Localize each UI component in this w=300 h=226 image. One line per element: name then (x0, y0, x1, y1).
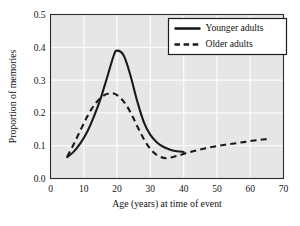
y-tick-label: 0.3 (34, 76, 46, 86)
y-tick-label: 0.0 (34, 174, 46, 184)
x-tick-label: 20 (112, 184, 122, 194)
legend-label: Older adults (206, 38, 253, 49)
y-tick-label: 0.5 (34, 10, 46, 20)
y-axis-title: Proportion of memories (7, 50, 18, 144)
x-tick-label: 50 (212, 184, 222, 194)
y-tick-label: 0.2 (34, 108, 46, 118)
x-tick-label: 0 (48, 184, 53, 194)
x-tick-label: 60 (245, 184, 255, 194)
y-tick-label: 0.4 (34, 43, 46, 53)
legend-label: Younger adults (206, 22, 264, 33)
x-tick-label: 40 (179, 184, 189, 194)
chart-figure: 0.00.10.20.30.40.5 010203040506070 Age (… (0, 0, 300, 226)
x-tick-label: 30 (146, 184, 156, 194)
x-axis-title: Age (years) at time of event (112, 198, 222, 210)
x-tick-label: 70 (279, 184, 289, 194)
chart-legend: Younger adultsOlder adults (169, 19, 287, 55)
y-tick-label: 0.1 (34, 141, 46, 151)
chart-svg: 0.00.10.20.30.40.5 010203040506070 Age (… (0, 0, 300, 226)
x-tick-label: 10 (79, 184, 89, 194)
